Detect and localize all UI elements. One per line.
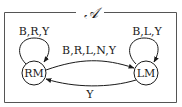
automaton-title: 𝒜 [84, 4, 103, 22]
transition-rm-to-lm [46, 61, 134, 70]
state-lm-label: LM [137, 67, 156, 80]
transition-rm-to-lm-label: B,R,L,N,Y [62, 44, 117, 57]
state-lm: LM [134, 61, 158, 85]
automaton-diagram: 𝒜 RM LM B,R,Y B,L,Y B,R,L,N,Y Y [0, 0, 182, 107]
transition-lm-to-rm [46, 79, 136, 86]
state-rm: RM [22, 61, 46, 85]
self-loop-rm-label: B,R,Y [19, 25, 50, 38]
self-loop-rm [20, 38, 49, 64]
self-loop-lm [130, 38, 159, 64]
state-rm-label: RM [24, 67, 44, 80]
transition-lm-to-rm-label: Y [85, 88, 94, 101]
self-loop-lm-label: B,L,Y [132, 25, 162, 38]
